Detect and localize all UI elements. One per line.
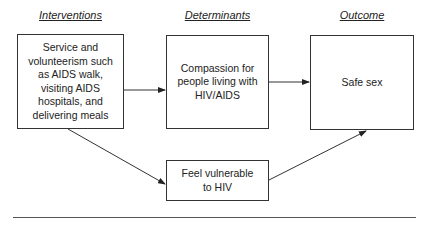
arrow-vulnerable-to-outcome — [269, 131, 366, 180]
outcome-text: Safe sex — [342, 76, 383, 90]
compassion-text: Compassion for people living with HIV/AI… — [178, 62, 258, 103]
arrow-intervention-to-vulnerable — [68, 129, 165, 184]
intervention-text: Service and volunteerism such as AIDS wa… — [28, 41, 113, 122]
intervention-box: Service and volunteerism such as AIDS wa… — [17, 34, 124, 129]
outcome-box: Safe sex — [310, 35, 414, 130]
compassion-box: Compassion for people living with HIV/AI… — [166, 35, 269, 129]
vulnerable-box: Feel vulnerable to HIV — [166, 160, 269, 201]
vulnerable-text: Feel vulnerable to HIV — [182, 167, 254, 194]
bottom-rule — [13, 217, 416, 218]
